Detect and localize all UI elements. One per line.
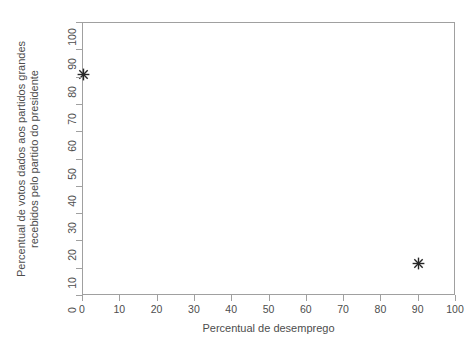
y-tick-label: 80 bbox=[66, 77, 78, 107]
x-tick-mark bbox=[119, 295, 120, 301]
y-axis-title-line-1: Percentual de votos dados aos partidos g… bbox=[15, 40, 28, 276]
y-tick-label: 50 bbox=[66, 159, 78, 189]
x-tick-mark bbox=[380, 295, 381, 301]
data-point-marker bbox=[412, 257, 425, 270]
x-tick-mark bbox=[343, 295, 344, 301]
x-tick-mark bbox=[157, 295, 158, 301]
x-axis-title: Percentual de desemprego bbox=[82, 322, 455, 334]
x-tick-label: 70 bbox=[323, 303, 363, 315]
x-tick-mark bbox=[82, 295, 83, 301]
x-tick-label: 60 bbox=[286, 303, 326, 315]
x-tick-label: 30 bbox=[174, 303, 214, 315]
y-tick-label: 70 bbox=[66, 104, 78, 134]
data-points-layer bbox=[83, 23, 454, 294]
x-tick-mark bbox=[418, 295, 419, 301]
y-axis-title: Percentual de votos dados aos partidos g… bbox=[14, 22, 42, 295]
x-tick-label: 20 bbox=[137, 303, 177, 315]
x-tick-mark bbox=[306, 295, 307, 301]
x-tick-label: 40 bbox=[211, 303, 251, 315]
y-tick-label: 100 bbox=[66, 22, 78, 52]
plot-area bbox=[82, 22, 455, 295]
x-tick-mark bbox=[194, 295, 195, 301]
y-tick-label: 40 bbox=[66, 186, 78, 216]
y-tick-label: 90 bbox=[66, 49, 78, 79]
y-tick-label: 30 bbox=[66, 213, 78, 243]
x-tick-label: 100 bbox=[435, 303, 475, 315]
scatter-plot-figure: 0102030405060708090100 01020304050607080… bbox=[0, 0, 475, 353]
x-tick-label: 50 bbox=[249, 303, 289, 315]
y-axis-title-line-2: recebidos pelo partido do presidente bbox=[28, 40, 41, 276]
x-tick-mark bbox=[455, 295, 456, 301]
x-tick-mark bbox=[269, 295, 270, 301]
y-tick-label: 0 bbox=[66, 295, 78, 325]
x-tick-mark bbox=[231, 295, 232, 301]
x-tick-label: 10 bbox=[99, 303, 139, 315]
x-tick-label: 80 bbox=[360, 303, 400, 315]
y-tick-label: 10 bbox=[66, 268, 78, 298]
data-point-marker bbox=[77, 68, 90, 81]
x-tick-label: 90 bbox=[398, 303, 438, 315]
y-tick-label: 60 bbox=[66, 131, 78, 161]
y-tick-label: 20 bbox=[66, 240, 78, 270]
